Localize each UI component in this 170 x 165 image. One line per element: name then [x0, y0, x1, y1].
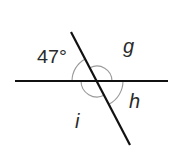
angle-g-label: g: [123, 35, 134, 57]
angle-h-label: h: [129, 90, 140, 112]
arc-47-degree: [72, 59, 85, 81]
arc-angle-h: [109, 81, 123, 104]
transversal-line: [71, 32, 130, 145]
angle-i-label: i: [75, 110, 80, 132]
given-angle-label: 47°: [37, 46, 67, 67]
angle-diagram: 47° g h i: [0, 0, 170, 165]
